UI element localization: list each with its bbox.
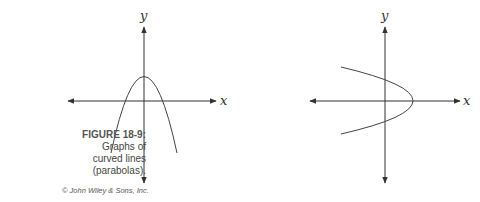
caption-line: (parabolas). [0, 165, 146, 177]
caption-line: curved lines [0, 153, 146, 165]
figure-label: FIGURE 18-9: [0, 129, 146, 141]
x-axis-label: x [463, 93, 471, 108]
copyright-credit: © John Wiley & Sons, Inc. [62, 186, 149, 195]
y-axis-label: y [380, 8, 389, 23]
y-axis-label: y [139, 8, 148, 23]
graph-right: x y [310, 8, 471, 183]
x-axis-label: x [220, 93, 228, 108]
figure-caption: FIGURE 18-9: Graphs of curved lines (par… [0, 129, 146, 177]
caption-line: Graphs of [0, 141, 146, 153]
